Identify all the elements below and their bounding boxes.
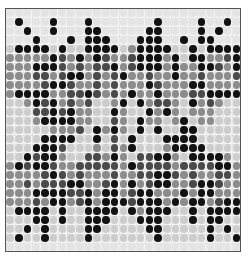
dot	[76, 189, 84, 197]
dot	[33, 162, 41, 170]
dot	[198, 207, 206, 215]
dot	[41, 234, 49, 242]
dot	[233, 189, 241, 197]
dot	[189, 72, 197, 80]
dot	[224, 63, 232, 71]
dot	[85, 27, 93, 35]
dot	[93, 135, 101, 143]
dot	[233, 216, 241, 224]
dot	[6, 108, 14, 116]
dot	[76, 72, 84, 80]
dot	[215, 153, 223, 161]
dot	[207, 216, 215, 224]
dot	[59, 243, 67, 251]
dot	[50, 135, 58, 143]
dot	[120, 90, 128, 98]
dot	[24, 99, 32, 107]
dot	[120, 198, 128, 206]
dot	[120, 216, 128, 224]
dot	[33, 216, 41, 224]
dot	[146, 90, 154, 98]
dot	[215, 54, 223, 62]
dot	[215, 171, 223, 179]
dot	[102, 198, 110, 206]
dot	[15, 135, 23, 143]
dot	[50, 117, 58, 125]
dot	[180, 126, 188, 134]
dot	[189, 243, 197, 251]
dot	[59, 18, 67, 26]
dot	[189, 36, 197, 44]
dot	[207, 117, 215, 125]
dot	[224, 81, 232, 89]
dot	[59, 81, 67, 89]
dot	[111, 180, 119, 188]
dot	[215, 162, 223, 170]
dot	[120, 18, 128, 26]
dot	[128, 45, 136, 53]
dot	[15, 72, 23, 80]
dot	[6, 234, 14, 242]
dot	[180, 225, 188, 233]
dot	[93, 72, 101, 80]
dot	[189, 225, 197, 233]
dot	[67, 63, 75, 71]
dot	[207, 234, 215, 242]
dot	[102, 180, 110, 188]
dot	[93, 207, 101, 215]
dot	[6, 198, 14, 206]
dot	[76, 45, 84, 53]
dot	[102, 189, 110, 197]
dot	[76, 162, 84, 170]
dot	[111, 72, 119, 80]
dot	[41, 180, 49, 188]
dot	[50, 72, 58, 80]
dot	[215, 72, 223, 80]
dot	[33, 234, 41, 242]
dot	[180, 153, 188, 161]
dot	[146, 126, 154, 134]
dot	[41, 243, 49, 251]
dot	[163, 216, 171, 224]
dot	[120, 54, 128, 62]
dot	[24, 18, 32, 26]
dot	[233, 144, 241, 152]
dot	[85, 63, 93, 71]
dot	[33, 243, 41, 251]
dot-matrix-frame	[5, 8, 241, 252]
dot	[172, 171, 180, 179]
dot	[198, 108, 206, 116]
dot	[85, 108, 93, 116]
dot	[24, 126, 32, 134]
dot	[6, 36, 14, 44]
dot	[180, 18, 188, 26]
dot	[15, 243, 23, 251]
dot	[102, 27, 110, 35]
dot	[85, 180, 93, 188]
dot	[198, 243, 206, 251]
dot	[146, 225, 154, 233]
dot	[180, 243, 188, 251]
dot	[67, 144, 75, 152]
dot	[233, 126, 241, 134]
dot	[102, 126, 110, 134]
dot	[41, 117, 49, 125]
dot	[59, 216, 67, 224]
dot	[137, 225, 145, 233]
dot	[189, 189, 197, 197]
dot	[50, 63, 58, 71]
dot	[215, 216, 223, 224]
dot	[137, 117, 145, 125]
dot	[207, 153, 215, 161]
dot	[93, 117, 101, 125]
dot	[233, 9, 241, 17]
dot	[33, 63, 41, 71]
dot	[111, 9, 119, 17]
dot	[33, 9, 41, 17]
dot	[146, 135, 154, 143]
dot	[233, 135, 241, 143]
dot	[128, 216, 136, 224]
dot	[6, 117, 14, 125]
dot	[24, 153, 32, 161]
dot	[24, 216, 32, 224]
